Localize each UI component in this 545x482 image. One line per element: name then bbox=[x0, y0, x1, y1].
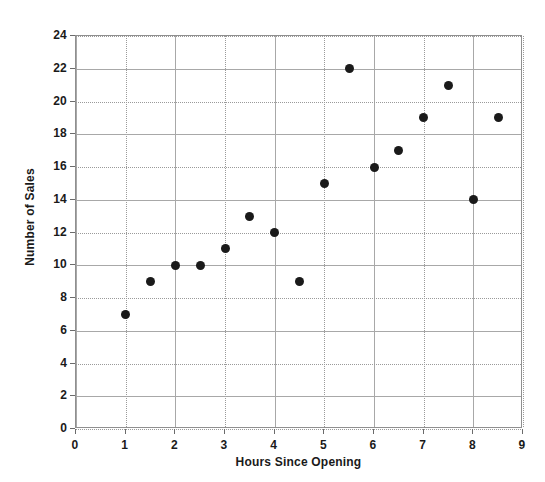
gridline-horizontal bbox=[76, 134, 521, 135]
y-tick-label: 20 bbox=[7, 94, 67, 108]
y-tick-mark bbox=[70, 363, 75, 364]
gridline-horizontal bbox=[76, 265, 521, 266]
x-tick-mark bbox=[274, 429, 275, 434]
y-tick-mark bbox=[70, 68, 75, 69]
y-tick-label: 2 bbox=[7, 388, 67, 402]
data-point bbox=[320, 179, 329, 188]
data-point bbox=[245, 212, 254, 221]
x-tick-label: 2 bbox=[154, 438, 194, 452]
y-tick-label: 24 bbox=[7, 28, 67, 42]
data-point bbox=[444, 81, 453, 90]
y-tick-mark bbox=[70, 297, 75, 298]
gridline-horizontal bbox=[76, 331, 521, 332]
data-point bbox=[171, 261, 180, 270]
data-point bbox=[419, 113, 428, 122]
y-tick-label: 22 bbox=[7, 61, 67, 75]
scatter-chart: 024681012141618202224 0123456789 Hours S… bbox=[0, 0, 545, 482]
y-tick-mark bbox=[70, 101, 75, 102]
x-tick-label: 9 bbox=[502, 438, 542, 452]
gridline-vertical bbox=[126, 36, 127, 427]
y-tick-mark bbox=[70, 166, 75, 167]
data-point bbox=[270, 228, 279, 237]
y-tick-mark bbox=[70, 264, 75, 265]
x-tick-label: 8 bbox=[452, 438, 492, 452]
gridline-horizontal bbox=[76, 102, 521, 103]
gridline-vertical bbox=[76, 36, 77, 427]
gridline-horizontal bbox=[76, 429, 521, 430]
y-tick-label: 0 bbox=[7, 421, 67, 435]
gridline-horizontal bbox=[76, 396, 521, 397]
x-tick-mark bbox=[174, 429, 175, 434]
y-tick-label: 14 bbox=[7, 192, 67, 206]
y-tick-label: 10 bbox=[7, 257, 67, 271]
x-tick-mark bbox=[522, 429, 523, 434]
x-tick-mark bbox=[125, 429, 126, 434]
y-tick-label: 18 bbox=[7, 126, 67, 140]
x-tick-label: 7 bbox=[403, 438, 443, 452]
gridline-vertical bbox=[225, 36, 226, 427]
x-tick-mark bbox=[373, 429, 374, 434]
data-point bbox=[146, 277, 155, 286]
y-tick-label: 4 bbox=[7, 356, 67, 370]
y-tick-mark bbox=[70, 199, 75, 200]
x-tick-mark bbox=[423, 429, 424, 434]
x-tick-mark bbox=[323, 429, 324, 434]
gridline-horizontal bbox=[76, 298, 521, 299]
y-tick-mark bbox=[70, 133, 75, 134]
gridline-vertical bbox=[473, 36, 474, 427]
x-tick-label: 1 bbox=[105, 438, 145, 452]
x-tick-label: 4 bbox=[254, 438, 294, 452]
gridline-horizontal bbox=[76, 233, 521, 234]
gridline-vertical bbox=[424, 36, 425, 427]
y-tick-label: 8 bbox=[7, 290, 67, 304]
data-point bbox=[295, 277, 304, 286]
gridline-horizontal bbox=[76, 36, 521, 37]
data-point bbox=[121, 310, 130, 319]
y-tick-label: 6 bbox=[7, 323, 67, 337]
x-tick-label: 0 bbox=[55, 438, 95, 452]
data-point bbox=[494, 113, 503, 122]
y-tick-mark bbox=[70, 232, 75, 233]
x-tick-mark bbox=[472, 429, 473, 434]
x-tick-mark bbox=[224, 429, 225, 434]
x-tick-label: 3 bbox=[204, 438, 244, 452]
gridline-horizontal bbox=[76, 69, 521, 70]
gridline-vertical bbox=[324, 36, 325, 427]
gridline-horizontal bbox=[76, 364, 521, 365]
data-point bbox=[345, 64, 354, 73]
data-point bbox=[196, 261, 205, 270]
x-tick-label: 6 bbox=[353, 438, 393, 452]
gridline-vertical bbox=[374, 36, 375, 427]
y-tick-mark bbox=[70, 330, 75, 331]
y-axis-title: Number of Sales bbox=[23, 147, 37, 287]
data-point bbox=[469, 195, 478, 204]
data-point bbox=[394, 146, 403, 155]
data-point bbox=[221, 244, 230, 253]
gridline-horizontal bbox=[76, 200, 521, 201]
gridline-horizontal bbox=[76, 167, 521, 168]
x-tick-mark bbox=[75, 429, 76, 434]
x-tick-label: 5 bbox=[303, 438, 343, 452]
y-tick-label: 16 bbox=[7, 159, 67, 173]
y-tick-mark bbox=[70, 35, 75, 36]
data-point bbox=[370, 163, 379, 172]
plot-area bbox=[75, 35, 522, 428]
x-axis-title: Hours Since Opening bbox=[75, 455, 522, 469]
gridline-vertical bbox=[523, 36, 524, 427]
gridline-vertical bbox=[175, 36, 176, 427]
y-tick-label: 12 bbox=[7, 225, 67, 239]
y-tick-mark bbox=[70, 395, 75, 396]
